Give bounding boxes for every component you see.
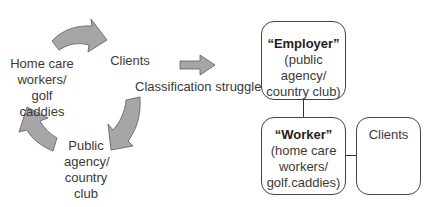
employer-box: “Employer” (public agency/ country club) [261, 21, 346, 100]
employer-detail-line: (public agency/ [262, 52, 345, 84]
right-arrow-icon-classification [180, 55, 215, 75]
employer-title: “Employer” [262, 36, 345, 52]
cycle-node-agency-line: agency/ [64, 154, 108, 170]
curved-arrow-icon-workers-to-clients [52, 19, 107, 52]
cycle-node-clients: Clients [106, 53, 154, 69]
cycle-node-agency-line: Public [64, 138, 108, 154]
cycle-node-agency: Public agency/ country club [64, 138, 108, 202]
cycle-node-agency-line: club [64, 186, 108, 202]
clients-title: Clients [357, 127, 420, 143]
worker-detail-line: golf.caddies) [262, 175, 345, 191]
employer-worker-connector [303, 100, 304, 117]
cycle-node-workers: Home care workers/ golf caddies [8, 56, 76, 120]
cycle-node-workers-line: workers/ [8, 72, 76, 88]
worker-box: “Worker” (home care workers/ golf.caddie… [261, 117, 346, 195]
employer-detail-line: country club) [262, 84, 345, 100]
cycle-node-agency-line: country [64, 170, 108, 186]
worker-detail-line: workers/ [262, 159, 345, 175]
cycle-node-clients-line: Clients [106, 53, 154, 69]
classification-struggle-label: Classification struggle [135, 79, 265, 95]
cycle-node-workers-line: Home care [8, 56, 76, 72]
cycle-node-workers-line: golf caddies [8, 88, 76, 120]
worker-title: “Worker” [262, 127, 345, 143]
curved-arrow-icon-clients-to-agency [108, 97, 140, 150]
worker-detail-line: (home care [262, 143, 345, 159]
clients-box: Clients [356, 117, 421, 195]
